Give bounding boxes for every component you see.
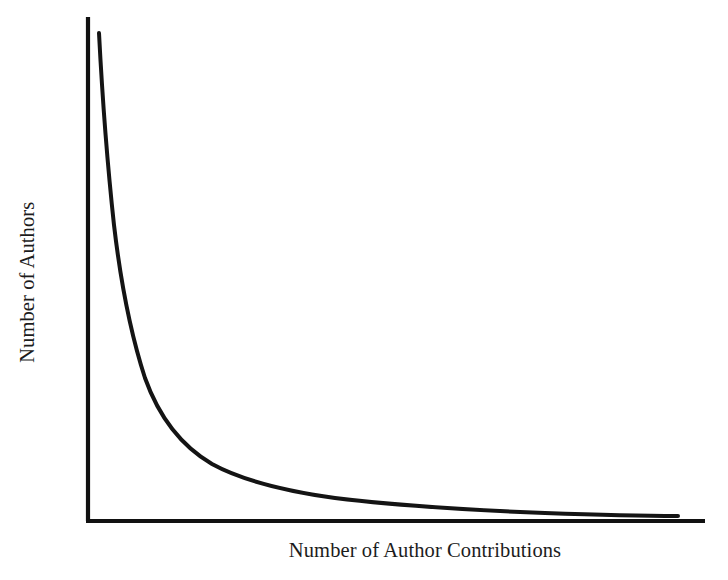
chart-plot-area (0, 0, 728, 580)
y-axis-label: Number of Authors (0, 0, 56, 580)
chart-figure: Number of Author Contributions Number of… (0, 0, 728, 580)
y-axis-label-text: Number of Authors (18, 201, 39, 362)
x-axis-label: Number of Author Contributions (0, 540, 728, 561)
chart-background (0, 0, 728, 580)
x-axis-label-text: Number of Author Contributions (289, 539, 561, 561)
